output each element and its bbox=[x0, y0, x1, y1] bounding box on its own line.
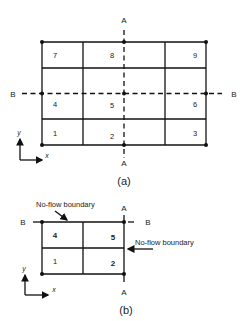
figure-caption-b: (b) bbox=[119, 304, 132, 316]
section-label-a-top: A bbox=[121, 16, 127, 25]
node bbox=[122, 40, 126, 44]
node bbox=[204, 92, 208, 96]
cell-label: 1 bbox=[53, 257, 57, 266]
y-axis-label: y bbox=[21, 265, 26, 273]
figure-b: A A B B 1 2 4 5 No-flow boundary No-flow… bbox=[20, 200, 194, 316]
figure-a: A A B B 1 2 3 4 5 6 7 8 9 y x (a) bbox=[10, 16, 236, 187]
section-label-b-right: B bbox=[231, 90, 236, 99]
section-label-a-bottom: A bbox=[121, 159, 127, 168]
section-label-b-left: B bbox=[20, 218, 25, 227]
annotation-right-no-flow: No-flow boundary bbox=[135, 238, 194, 247]
node bbox=[40, 40, 44, 44]
cell-label: 2 bbox=[110, 132, 114, 141]
annotation-top-no-flow: No-flow boundary bbox=[36, 200, 95, 209]
node bbox=[122, 92, 126, 96]
cell-label: 8 bbox=[110, 51, 114, 60]
node bbox=[122, 143, 126, 147]
node bbox=[204, 40, 208, 44]
section-label-b-right: B bbox=[145, 218, 150, 227]
node bbox=[40, 272, 44, 276]
diagram-canvas: A A B B 1 2 3 4 5 6 7 8 9 y x (a) bbox=[0, 0, 248, 321]
arrow-icon bbox=[55, 211, 67, 220]
cell-label: 3 bbox=[193, 129, 197, 138]
section-label-a-top: A bbox=[121, 204, 127, 213]
y-axis-label: y bbox=[16, 129, 21, 137]
node bbox=[40, 220, 44, 224]
cell-label: 7 bbox=[53, 51, 57, 60]
cell-label: 9 bbox=[193, 51, 197, 60]
cell-label: 4 bbox=[53, 231, 58, 240]
node bbox=[122, 272, 126, 276]
cell-label: 4 bbox=[53, 100, 57, 109]
node bbox=[40, 143, 44, 147]
x-axis-label: x bbox=[44, 152, 49, 159]
x-axis-label: x bbox=[51, 286, 56, 293]
section-label-b-left: B bbox=[10, 90, 15, 99]
section-label-a-bottom: A bbox=[121, 288, 127, 297]
cell-label: 5 bbox=[111, 233, 116, 242]
figure-caption-a: (a) bbox=[117, 175, 130, 187]
node bbox=[122, 220, 126, 224]
cell-label: 2 bbox=[111, 259, 116, 268]
axes-icon: y x bbox=[21, 265, 56, 295]
cell-label: 5 bbox=[110, 101, 114, 110]
node bbox=[40, 92, 44, 96]
node bbox=[204, 143, 208, 147]
cell-label: 1 bbox=[53, 129, 57, 138]
cell-label: 6 bbox=[193, 100, 197, 109]
